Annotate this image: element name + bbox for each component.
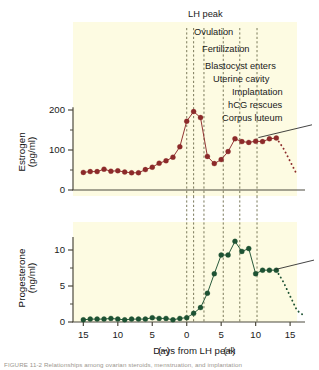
estrogen-data-point <box>108 169 113 174</box>
progesterone-data-point <box>108 316 113 321</box>
progesterone-data-point <box>232 239 237 244</box>
annotation-fertilization: Fertilization <box>202 44 250 54</box>
annotation-implantation: Implantation <box>232 87 283 97</box>
annotation-hcg-rescues: hCG rescues <box>228 100 283 110</box>
x-tick-label-15: 15 <box>285 329 296 340</box>
annotation-ovulation: Ovulation <box>194 27 233 37</box>
progesterone-data-point <box>226 253 231 258</box>
progesterone-data-point <box>150 315 155 320</box>
estrogen-data-point <box>198 115 203 120</box>
progesterone-axis-title: Progesterone(ng/ml) <box>16 248 38 307</box>
figure-caption: FIGURE 11-2 Relationships among ovarian … <box>4 361 316 368</box>
estrogen-data-point <box>95 169 100 174</box>
hormone-profile-chart: 0100200051015105051015Estrogen(pg/ml)Pro… <box>0 0 319 370</box>
estrogen-data-point <box>226 149 231 154</box>
estrogen-data-point <box>232 136 237 141</box>
progesterone-data-point <box>129 317 134 322</box>
annotation-uterine-cavity: Uterine cavity <box>213 74 270 84</box>
progesterone-ytick-label-0: 0 <box>60 316 65 327</box>
progesterone-data-point <box>239 249 244 254</box>
estrogen-data-point <box>122 170 127 175</box>
estrogen-data-point <box>274 136 279 141</box>
estrogen-ytick-label-0: 0 <box>60 184 65 195</box>
progesterone-data-point <box>246 246 251 251</box>
x-tick-label-0: 0 <box>184 329 189 340</box>
progesterone-data-point <box>198 305 203 310</box>
progesterone-data-point <box>143 317 148 322</box>
estrogen-data-point <box>81 170 86 175</box>
estrogen-ytick-label-100: 100 <box>49 144 65 155</box>
estrogen-data-point <box>267 136 272 141</box>
progesterone-data-point <box>184 315 189 320</box>
x-tick-label--15: 15 <box>78 329 89 340</box>
estrogen-data-point <box>205 154 210 159</box>
progesterone-data-point <box>115 317 120 322</box>
figure-container: 0100200051015105051015Estrogen(pg/ml)Pro… <box>0 0 319 370</box>
progesterone-data-point <box>260 268 265 273</box>
estrogen-data-point <box>212 161 217 166</box>
estrogen-data-point <box>164 158 169 163</box>
x-tick-label-5: 5 <box>219 329 224 340</box>
estrogen-data-point <box>184 119 189 124</box>
progesterone-data-point <box>253 271 258 276</box>
progesterone-data-point <box>88 317 93 322</box>
estrogen-data-point <box>88 169 93 174</box>
progesterone-data-point <box>212 271 217 276</box>
progesterone-data-point <box>267 268 272 273</box>
annotation-corpus-luteum: Corpus luteum <box>222 113 283 123</box>
estrogen-data-point <box>129 170 134 175</box>
progesterone-data-point <box>122 317 127 322</box>
estrogen-data-point <box>136 170 141 175</box>
x-axis-plus-sign: (+) <box>223 345 235 356</box>
x-axis-title: (−)Days from LH peak(+) <box>153 345 235 356</box>
annotation-lh-peak: LH peak <box>188 9 223 19</box>
progesterone-data-point <box>102 317 107 322</box>
progesterone-data-point <box>177 316 182 321</box>
x-tick-label--10: 10 <box>112 329 123 340</box>
estrogen-data-point <box>143 167 148 172</box>
progesterone-data-point <box>170 317 175 322</box>
annotation-blastocyst: Blastocyst enters <box>205 61 276 71</box>
progesterone-data-point <box>95 317 100 322</box>
x-tick-label--5: 5 <box>150 329 155 340</box>
estrogen-data-point <box>157 161 162 166</box>
estrogen-data-point <box>115 168 120 173</box>
estrogen-data-point <box>150 165 155 170</box>
estrogen-data-point <box>177 144 182 149</box>
x-tick-label-10: 10 <box>250 329 261 340</box>
estrogen-data-point <box>219 157 224 162</box>
estrogen-data-point <box>260 139 265 144</box>
estrogen-data-point <box>191 109 196 114</box>
progesterone-data-point <box>157 316 162 321</box>
progesterone-data-point <box>191 311 196 316</box>
estrogen-data-point <box>246 140 251 145</box>
axis-titles: Estrogen(pg/ml)Progesterone(ng/ml) <box>16 132 38 307</box>
progesterone-data-point <box>81 317 86 322</box>
estrogen-axis-title: Estrogen(pg/ml) <box>16 132 38 171</box>
estrogen-data-point <box>253 139 258 144</box>
estrogen-data-point <box>102 167 107 172</box>
progesterone-data-point <box>136 317 141 322</box>
progesterone-data-point <box>205 291 210 296</box>
estrogen-data-point <box>170 155 175 160</box>
progesterone-ytick-label-5: 5 <box>60 280 65 291</box>
estrogen-data-point <box>239 139 244 144</box>
estrogen-ytick-label-200: 200 <box>49 104 65 115</box>
progesterone-ytick-label-10: 10 <box>54 244 65 255</box>
progesterone-data-point <box>219 253 224 258</box>
progesterone-data-point <box>164 316 169 321</box>
